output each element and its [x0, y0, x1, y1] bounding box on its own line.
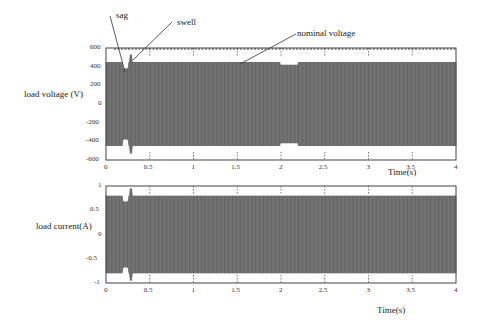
current-x-tick: 2.5 — [319, 286, 328, 294]
current-x-tick: 2 — [279, 286, 283, 294]
voltage-x-tick: 3.5 — [406, 163, 415, 171]
current-y-tick: -1 — [94, 278, 100, 286]
voltage-x-tick: 2.5 — [319, 163, 328, 171]
current-y-axis-label: load current(A) — [36, 221, 92, 231]
current-x-tick: 3.5 — [406, 286, 415, 294]
current-y-tick: 0.5 — [90, 205, 99, 213]
current-x-tick: 0 — [104, 286, 108, 294]
voltage-x-tick: 0.5 — [144, 163, 153, 171]
voltage-x-tick: 1.5 — [231, 163, 240, 171]
current-y-tick: 1 — [98, 181, 102, 189]
current-x-tick: 0.5 — [144, 286, 153, 294]
voltage-y-tick: -400 — [86, 136, 99, 144]
current-y-tick: -0.5 — [86, 254, 97, 262]
swell-label: swell — [177, 17, 196, 27]
current-waveform — [106, 188, 456, 280]
current-x-tick: 4 — [454, 286, 458, 294]
voltage-x-tick: 2 — [279, 163, 283, 171]
voltage-x-tick: 0 — [104, 163, 108, 171]
nominal-voltage-label: nominal voltage — [297, 28, 355, 38]
current-x-tick: 3 — [367, 286, 371, 294]
voltage-y-tick: 0 — [98, 99, 102, 107]
voltage-y-tick: -600 — [86, 155, 99, 163]
voltage-y-tick: 400 — [90, 62, 101, 70]
voltage-y-tick: 200 — [90, 80, 101, 88]
voltage-x-tick: 4 — [454, 163, 458, 171]
voltage-y-tick: -200 — [86, 118, 99, 126]
voltage-x-tick: 1 — [192, 163, 196, 171]
voltage-x-tick: 3 — [367, 163, 371, 171]
voltage-waveform — [106, 55, 456, 154]
current-x-axis-label: Time(s) — [377, 305, 405, 315]
sag-label: sag — [116, 10, 128, 20]
current-x-tick: 1.5 — [231, 286, 240, 294]
current-y-tick: 0 — [98, 230, 102, 238]
current-x-tick: 1 — [192, 286, 196, 294]
voltage-y-axis-label: load voltage (V) — [24, 89, 83, 99]
voltage-y-tick: 600 — [90, 43, 101, 51]
voltage-plot — [106, 48, 456, 160]
current-plot — [106, 186, 456, 283]
